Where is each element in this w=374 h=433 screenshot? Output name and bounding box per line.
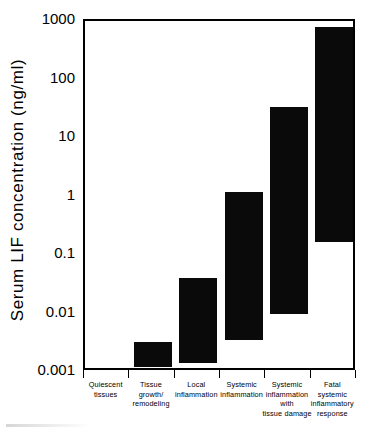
x-tick-mark (128, 370, 129, 378)
x-category-label-line: systemic (306, 390, 358, 400)
x-category-label-line: inflammation (170, 390, 222, 400)
x-category-label-4: Systemicinflammation (216, 380, 268, 399)
x-category-label-5: Systemicinflammationwithtissue damage (261, 380, 313, 418)
x-tick-mark (264, 370, 265, 378)
y-tick-label: 1 (67, 187, 75, 202)
bar-3 (179, 278, 217, 363)
bars-layer (85, 21, 353, 368)
y-axis-title-text: Serum LIF concentration (ng/ml) (8, 59, 28, 321)
x-category-label-line: Systemic (261, 380, 313, 390)
bar-4 (225, 192, 263, 340)
y-tick-label: 100 (50, 70, 75, 85)
x-tick-mark (310, 370, 311, 378)
x-category-label-3: Localinflammation (170, 380, 222, 399)
chart-figure: Serum LIF concentration (ng/ml) 10001001… (0, 0, 374, 433)
x-category-label-line: Systemic (216, 380, 268, 390)
x-category-label-line: inflammation (216, 390, 268, 400)
x-category-label-line: with (261, 399, 313, 409)
y-tick-label: 0.01 (46, 304, 75, 319)
x-category-label-line: remodeling (125, 399, 177, 409)
y-axis-title: Serum LIF concentration (ng/ml) (0, 0, 36, 380)
y-tick-label: 10 (58, 128, 75, 143)
scan-artifact (6, 424, 126, 427)
x-category-label-2: Tissuegrowth/remodeling (125, 380, 177, 409)
x-tick-mark (83, 370, 84, 378)
bar-5 (270, 107, 308, 314)
x-category-label-line: inflammation (261, 390, 313, 400)
y-tick-label: 1000 (42, 11, 75, 26)
x-category-label-line: growth/ (125, 390, 177, 400)
x-category-label-line: Fatal (306, 380, 358, 390)
x-category-label-6: Fatalsystemicinflammatoryresponse (306, 380, 358, 418)
x-tick-mark (174, 370, 175, 378)
x-category-label-line: tissue damage (261, 409, 313, 419)
x-category-label-1: Quiescenttissues (80, 380, 132, 399)
bar-2 (134, 342, 172, 367)
x-category-label-line: response (306, 409, 358, 419)
x-category-label-line: inflammatory (306, 399, 358, 409)
x-category-label-line: Local (170, 380, 222, 390)
y-tick-label: 0.001 (37, 362, 75, 377)
x-category-label-line: Tissue (125, 380, 177, 390)
x-category-label-line: tissues (80, 390, 132, 400)
x-tick-mark (355, 370, 356, 378)
plot-area (83, 19, 355, 370)
x-category-label-line: Quiescent (80, 380, 132, 390)
x-tick-mark (219, 370, 220, 378)
y-tick-label: 0.1 (54, 245, 75, 260)
bar-6 (315, 27, 353, 242)
